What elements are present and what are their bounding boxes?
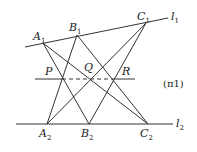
label-q: Q (84, 61, 93, 74)
pappus-diagram: A1 B1 C1 l1 A2 B2 C2 l2 P Q R (π1) (0, 0, 197, 152)
segment-c1-a2 (47, 23, 146, 124)
segment-c1-b2 (89, 23, 146, 124)
label-a1: A1 (32, 30, 45, 45)
label-a2: A2 (38, 127, 51, 142)
label-c1: C1 (137, 10, 150, 25)
label-r: R (121, 65, 130, 78)
label-c2: C2 (140, 127, 153, 142)
label-plane-pi1: (π1) (163, 78, 184, 89)
label-p: P (44, 65, 53, 78)
segment-a1-b2 (43, 43, 89, 124)
label-l1: l1 (171, 10, 179, 25)
diagram-svg: A1 B1 C1 l1 A2 B2 C2 l2 P Q R (π1) (0, 0, 197, 152)
label-b2: B2 (80, 127, 94, 142)
label-b1: B1 (68, 21, 82, 36)
label-l2: l2 (176, 117, 184, 132)
